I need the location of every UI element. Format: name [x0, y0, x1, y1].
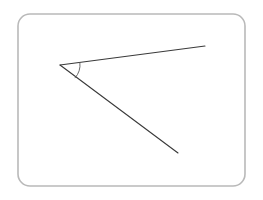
angle-diagram-svg: [0, 0, 263, 200]
angle-arc: [75, 62, 80, 78]
lower-ray: [60, 65, 178, 153]
upper-ray: [60, 46, 205, 65]
rounded-rectangle-frame: [18, 14, 245, 186]
angle-diagram-canvas: [0, 0, 263, 200]
